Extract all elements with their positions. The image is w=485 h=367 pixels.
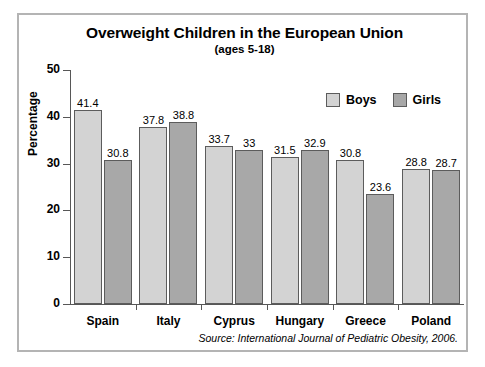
y-tick-mark [63, 257, 70, 258]
bar-group: 28.828.7 [398, 70, 464, 304]
y-tick-label: 50 [47, 62, 60, 76]
x-axis-label-poland: Poland [398, 314, 464, 328]
bar-group: 33.733 [201, 70, 267, 304]
bar-value-label: 30.8 [107, 147, 128, 159]
bar-value-label: 33 [243, 137, 255, 149]
bar-greece-girls[interactable]: 23.6 [366, 194, 394, 304]
y-tick-mark [63, 117, 70, 118]
chart-title: Overweight Children in the European Unio… [19, 24, 470, 42]
bar-hungary-boys[interactable]: 31.5 [271, 157, 299, 304]
y-tick-mark [63, 70, 70, 71]
bar-value-label: 37.8 [143, 114, 164, 126]
y-tick-label: 30 [47, 156, 60, 170]
source-note: Source: International Journal of Pediatr… [198, 332, 458, 344]
bar-poland-girls[interactable]: 28.7 [432, 170, 460, 304]
x-tick-mark [201, 304, 202, 310]
bar-value-label: 31.5 [274, 144, 295, 156]
bar-value-label: 28.7 [435, 157, 456, 169]
bar-value-label: 32.9 [304, 137, 325, 149]
y-tick-mark [63, 210, 70, 211]
bar-group: 41.430.8 [70, 70, 136, 304]
bar-spain-boys[interactable]: 41.4 [74, 110, 102, 304]
y-tick-label: 40 [47, 109, 60, 123]
bar-cyprus-girls[interactable]: 33 [235, 150, 263, 304]
bar-value-label: 30.8 [340, 147, 361, 159]
bar-value-label: 38.8 [173, 109, 194, 121]
y-tick-label: 10 [47, 249, 60, 263]
bar-hungary-girls[interactable]: 32.9 [301, 150, 329, 304]
x-axis-label-greece: Greece [333, 314, 399, 328]
bar-value-label: 41.4 [77, 97, 98, 109]
bar-group: 31.532.9 [267, 70, 333, 304]
chart-subtitle: (ages 5-18) [19, 43, 470, 55]
y-axis-label: Percentage [26, 91, 40, 156]
chart-figure: Overweight Children in the European Unio… [17, 13, 468, 352]
bar-value-label: 33.7 [208, 133, 229, 145]
bar-group: 37.838.8 [136, 70, 202, 304]
x-tick-mark [136, 304, 137, 310]
y-tick-label: 20 [47, 202, 60, 216]
x-axis-label-italy: Italy [136, 314, 202, 328]
bar-poland-boys[interactable]: 28.8 [402, 169, 430, 304]
bar-italy-girls[interactable]: 38.8 [169, 122, 197, 304]
bar-greece-boys[interactable]: 30.8 [336, 160, 364, 304]
x-tick-mark [267, 304, 268, 310]
y-tick-label: 0 [53, 296, 60, 310]
x-axis-label-cyprus: Cyprus [201, 314, 267, 328]
bar-italy-boys[interactable]: 37.8 [139, 127, 167, 304]
x-axis-label-hungary: Hungary [267, 314, 333, 328]
x-axis-label-spain: Spain [70, 314, 136, 328]
y-tick-mark [63, 304, 70, 305]
bar-cyprus-boys[interactable]: 33.7 [205, 146, 233, 304]
bar-group: 30.823.6 [333, 70, 399, 304]
bar-spain-girls[interactable]: 30.8 [104, 160, 132, 304]
bar-value-label: 28.8 [405, 156, 426, 168]
x-tick-mark [398, 304, 399, 310]
y-tick-mark [63, 164, 70, 165]
x-tick-mark [333, 304, 334, 310]
bar-value-label: 23.6 [370, 181, 391, 193]
plot-area: Percentage 01020304050 41.430.8Spain37.8… [70, 70, 464, 304]
